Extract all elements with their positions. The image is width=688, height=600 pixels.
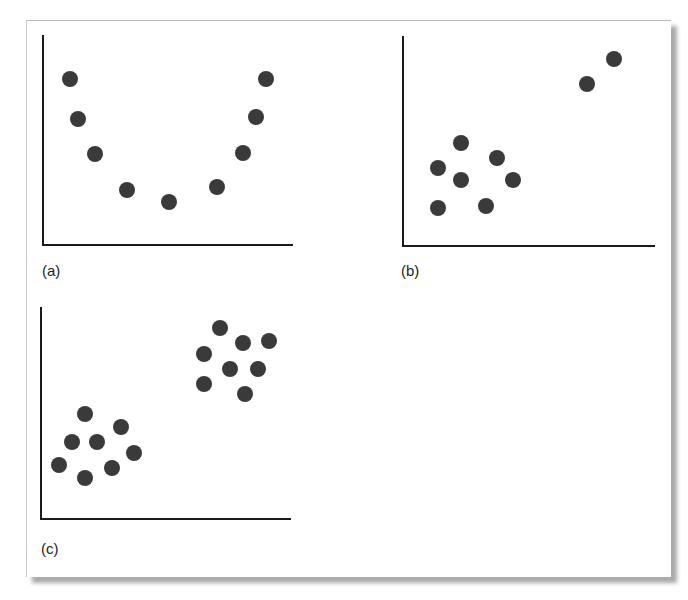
data-point <box>430 200 446 216</box>
data-point <box>489 150 505 166</box>
data-point <box>119 182 135 198</box>
data-point <box>89 434 105 450</box>
data-point <box>235 335 251 351</box>
data-point <box>70 111 86 127</box>
panel-label: (a) <box>42 262 60 279</box>
data-point <box>235 145 251 161</box>
data-point <box>261 333 277 349</box>
data-point <box>196 346 212 362</box>
data-point <box>62 71 78 87</box>
data-point <box>51 457 67 473</box>
data-point <box>453 172 469 188</box>
data-point <box>104 460 120 476</box>
data-point <box>248 109 264 125</box>
data-point <box>250 361 266 377</box>
data-point <box>430 160 446 176</box>
data-point <box>212 320 228 336</box>
data-point <box>237 386 253 402</box>
data-point <box>77 470 93 486</box>
panel-c <box>40 307 291 519</box>
data-point <box>606 51 622 67</box>
panel-label: (c) <box>41 540 59 557</box>
panel-a <box>42 35 293 245</box>
data-point <box>209 179 225 195</box>
data-point <box>196 376 212 392</box>
data-point <box>222 361 238 377</box>
data-point <box>64 434 80 450</box>
data-point <box>113 419 129 435</box>
data-point <box>258 71 274 87</box>
data-point <box>161 194 177 210</box>
data-point <box>126 445 142 461</box>
data-point <box>77 406 93 422</box>
data-point <box>87 146 103 162</box>
data-point <box>579 76 595 92</box>
data-point <box>478 198 494 214</box>
panel-label: (b) <box>401 262 419 279</box>
data-point <box>505 172 521 188</box>
panel-b <box>402 36 655 246</box>
scatter-plots <box>0 0 688 600</box>
data-point <box>453 135 469 151</box>
